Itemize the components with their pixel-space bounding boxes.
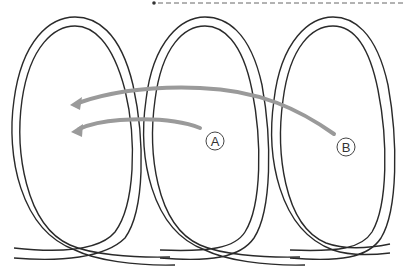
rope-loops-diagram: A B [0,0,403,272]
rope-loop-1 [12,17,175,265]
arrow-b-path [70,88,334,134]
rope-loop-3 [272,17,395,259]
label-a: A [206,132,224,150]
label-b: B [337,138,355,156]
dashed-guide-line [152,1,403,5]
svg-text:B: B [342,140,351,155]
arrow-a-path [71,119,200,137]
svg-text:A: A [211,134,220,149]
